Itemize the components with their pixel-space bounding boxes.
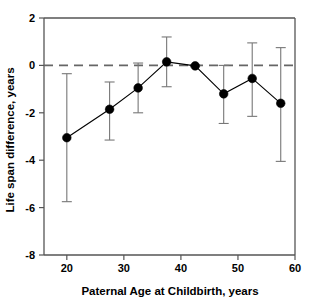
y-tick-label: -8 [25, 249, 35, 261]
series-markers [63, 58, 286, 142]
x-tick-label: 20 [61, 262, 73, 274]
data-point-marker [134, 84, 143, 93]
x-tick-labels: 2030405060 [61, 262, 301, 274]
y-tick-label: 2 [29, 12, 35, 24]
x-tick-label: 30 [118, 262, 130, 274]
y-tick-labels: 20-2-4-6-8 [25, 12, 36, 261]
data-point-marker [276, 99, 285, 108]
chart-figure: 2030405060 20-2-4-6-8 Paternal Age at Ch… [0, 0, 313, 303]
y-axis-title: Life span difference, years [4, 67, 16, 212]
x-axis-title: Paternal Age at Childbirth, years [81, 285, 258, 297]
y-tick-label: 0 [29, 59, 35, 71]
y-tick-label: -2 [25, 107, 35, 119]
data-point-marker [63, 133, 72, 142]
y-tick-label: -4 [25, 154, 36, 166]
chart-plot-area: 2030405060 20-2-4-6-8 Paternal Age at Ch… [0, 0, 313, 303]
data-point-marker [162, 58, 171, 67]
x-tick-label: 60 [289, 262, 301, 274]
series-polyline [67, 62, 281, 138]
axis-frame [44, 18, 295, 255]
series-line [67, 62, 281, 138]
x-tick-label: 40 [175, 262, 187, 274]
y-tick-label: -6 [25, 202, 35, 214]
data-point-marker [219, 90, 228, 99]
data-point-marker [248, 74, 257, 83]
data-point-marker [191, 62, 200, 71]
data-point-marker [105, 105, 114, 114]
x-tick-label: 50 [232, 262, 244, 274]
